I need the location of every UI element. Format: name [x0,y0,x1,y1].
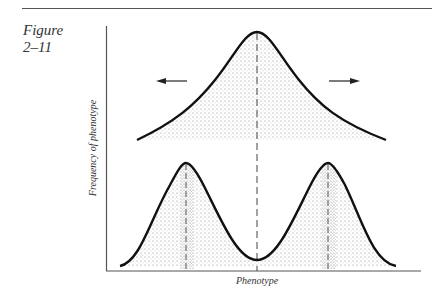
y-axis-label: Frequency of phenotype [87,100,98,196]
left-arrow-icon [156,78,187,84]
right-arrow-icon [329,78,360,84]
phenotype-diagram [0,0,432,303]
x-axis-label: Phenotype [236,275,278,286]
unimodal-curve [137,32,386,140]
bimodal-curve [120,163,396,269]
